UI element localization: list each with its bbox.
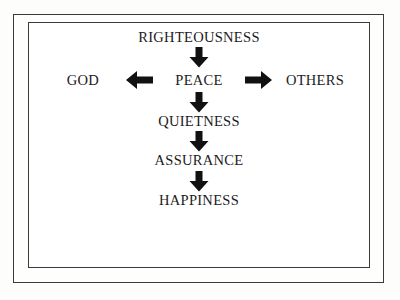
arrow-down-icon: [188, 131, 210, 152]
node-righteousness: RIGHTEOUSNESS: [138, 30, 260, 45]
branch-row-peace: GOD PEACE OTHERS: [28, 70, 370, 90]
arrow-down-icon: [188, 92, 210, 113]
arrow-left-icon: [126, 70, 156, 90]
diagram-content: RIGHTEOUSNESS GOD PEACE OTHERS: [28, 22, 370, 268]
arrow-down-icon: [188, 171, 210, 192]
arrow-right-icon: [242, 70, 272, 90]
arrow-down-icon: [188, 47, 210, 68]
node-assurance: ASSURANCE: [155, 153, 244, 168]
node-peace: PEACE: [156, 73, 242, 88]
node-happiness: HAPPINESS: [159, 193, 239, 208]
node-quietness: QUIETNESS: [158, 114, 240, 129]
diagram-root: RIGHTEOUSNESS GOD PEACE OTHERS: [0, 0, 400, 300]
node-others: OTHERS: [272, 73, 358, 88]
node-god: GOD: [40, 73, 126, 88]
